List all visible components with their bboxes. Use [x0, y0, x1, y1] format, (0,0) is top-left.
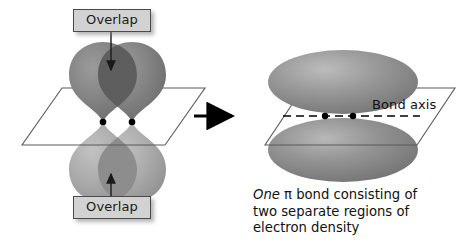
nucleus-right [129, 119, 136, 126]
caption-line3: electron density [253, 220, 359, 235]
lower-p-lobes [69, 122, 166, 202]
caption-line1-rest: π bond consisting of [280, 187, 417, 202]
right-pi-bond-diagram [265, 50, 455, 182]
nucleus-left [100, 119, 107, 126]
caption-emphasis: One [253, 187, 280, 202]
bond-axis-label: Bond axis [372, 97, 436, 112]
upper-p-lobes [69, 42, 166, 122]
lower-electron-density-cloud [268, 118, 418, 182]
nucleus-right-b [350, 113, 356, 119]
figure-caption: One π bond consisting of two separate re… [253, 187, 468, 237]
nucleus-right-a [322, 113, 328, 119]
overlap-bottom-label: Overlap [73, 196, 151, 219]
left-orbital-diagram [22, 30, 205, 214]
caption-line2: two separate regions of [253, 204, 409, 219]
overlap-top-label: Overlap [73, 9, 151, 32]
